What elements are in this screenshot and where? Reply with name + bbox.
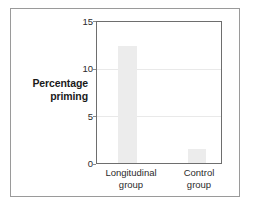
x-label-line-2: group (187, 179, 211, 190)
y-axis-title-line-1: Percentage (32, 77, 88, 89)
gridline-5 (97, 116, 221, 117)
plot-area (96, 21, 222, 164)
x-label-line-2: group (119, 179, 143, 190)
y-tick-mark-0 (93, 164, 96, 165)
y-tick-label-15: 15 (67, 17, 93, 27)
x-label-line-1: Control (184, 167, 215, 178)
bar-control-group (188, 149, 206, 163)
x-category-label-longitudinal-group: Longitudinalgroup (90, 167, 172, 190)
y-axis-title-line-2: priming (50, 90, 88, 102)
x-category-label-control-group: Controlgroup (163, 167, 235, 190)
y-tick-label-5: 5 (67, 112, 93, 122)
bar-chart-figure: Percentagepriming 15 10 5 0 Longitudinal… (0, 0, 253, 211)
y-tick-label-10: 10 (67, 64, 93, 74)
bar-longitudinal-group (118, 46, 137, 164)
gridline-10 (97, 69, 221, 70)
x-label-line-1: Longitudinal (105, 167, 156, 178)
y-axis-title: Percentagepriming (14, 77, 88, 102)
